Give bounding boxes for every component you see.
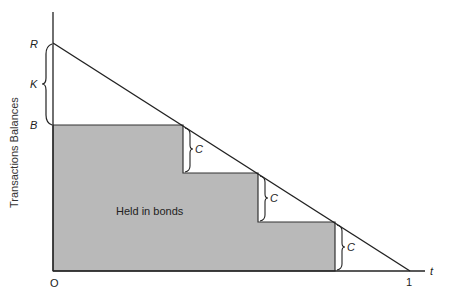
label-r: R xyxy=(30,38,38,50)
x-axis-label: t xyxy=(430,265,434,277)
c-brace-3 xyxy=(337,225,345,270)
bonds-region xyxy=(53,125,335,271)
region-label: Held in bonds xyxy=(116,205,184,217)
step-label-3: C xyxy=(347,241,355,253)
y-axis-label: Transactions Balances xyxy=(8,97,20,208)
origin-label: O xyxy=(50,277,59,289)
diagram: R K B C C C Held in bonds O 1 t Transact… xyxy=(0,0,451,296)
label-b: B xyxy=(30,119,37,131)
step-label-2: C xyxy=(270,192,278,204)
c-brace-2 xyxy=(260,176,268,221)
k-brace xyxy=(42,44,52,125)
label-k: K xyxy=(30,78,38,90)
step-label-1: C xyxy=(195,143,203,155)
c-brace-1 xyxy=(185,128,193,172)
x-end-label: 1 xyxy=(406,276,412,288)
